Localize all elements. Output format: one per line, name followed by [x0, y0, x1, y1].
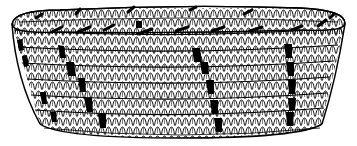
rim-block-mark — [136, 21, 142, 28]
basket-illustration — [0, 0, 357, 146]
basket-drawing — [0, 0, 357, 146]
